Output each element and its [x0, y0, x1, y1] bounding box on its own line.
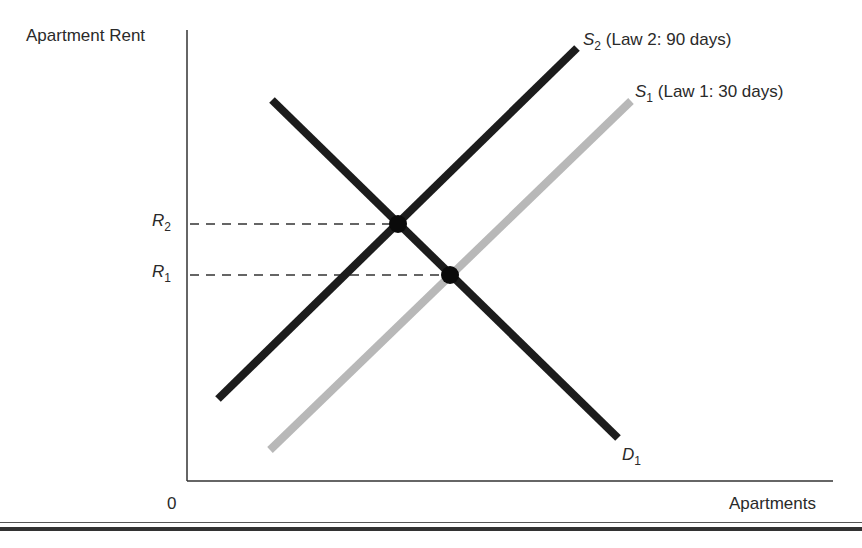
- bottom-rule-thick: [0, 527, 862, 531]
- equilibrium-point-e1: [441, 266, 459, 284]
- supply-demand-diagram: Apartment Rent Apartments 0 R2 R1 S2 (La…: [0, 0, 862, 548]
- bottom-rule-thin: [0, 522, 862, 523]
- price-subscript: 2: [164, 220, 171, 234]
- curve-symbol: D: [622, 445, 634, 464]
- curve-description: (Law 1: 30 days): [658, 82, 784, 101]
- equilibrium-point-e2: [389, 215, 407, 233]
- curve-label-s1: S1 (Law 1: 30 days): [635, 82, 783, 103]
- price-label-r1: R1: [152, 262, 171, 283]
- curve-subscript: 2: [594, 39, 601, 53]
- curve-label-d1: D1: [622, 445, 641, 466]
- y-axis-label: Apartment Rent: [26, 26, 145, 46]
- curve-subscript: 1: [634, 454, 641, 468]
- curve-symbol: S: [635, 82, 646, 101]
- price-label-r2: R2: [152, 211, 171, 232]
- price-symbol: R: [152, 262, 164, 281]
- x-axis-label: Apartments: [729, 494, 816, 514]
- curve-symbol: S: [583, 30, 594, 49]
- origin-label: 0: [167, 494, 176, 514]
- price-symbol: R: [152, 211, 164, 230]
- curve-label-s2: S2 (Law 2: 90 days): [583, 30, 731, 51]
- curve-description: (Law 2: 90 days): [606, 30, 732, 49]
- price-subscript: 1: [164, 271, 171, 285]
- curve-subscript: 1: [646, 91, 653, 105]
